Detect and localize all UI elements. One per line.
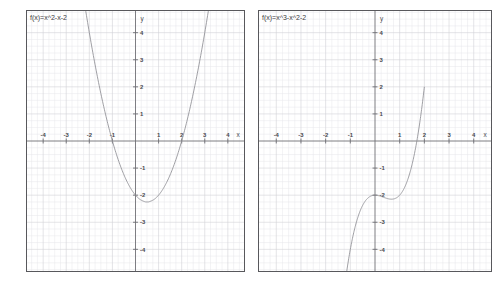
svg-text:-3: -3 xyxy=(379,219,385,225)
function-label-right: f(x)=x^3-x^2-2 xyxy=(262,13,306,22)
function-label-left: f(x)=x^2-x-2 xyxy=(30,13,67,22)
svg-text:3: 3 xyxy=(447,132,451,138)
svg-text:x: x xyxy=(483,131,487,138)
svg-text:3: 3 xyxy=(203,132,207,138)
svg-text:4: 4 xyxy=(472,132,476,138)
svg-text:-2: -2 xyxy=(140,192,146,198)
svg-text:-4: -4 xyxy=(379,247,385,253)
axis-names-left: xy xyxy=(140,15,240,138)
svg-text:-1: -1 xyxy=(379,165,385,171)
graph-panel-right: -4-3-2-11234-4-3-2-11234 xy f(x)=x^3-x^2… xyxy=(258,10,492,272)
svg-text:-3: -3 xyxy=(64,132,70,138)
axes-left xyxy=(27,11,244,271)
graph-panel-left: -4-3-2-11234-4-3-2-11234 xy f(x)=x^2-x-2 xyxy=(26,10,245,272)
svg-text:4: 4 xyxy=(226,132,230,138)
svg-text:-4: -4 xyxy=(41,132,47,138)
svg-text:2: 2 xyxy=(423,132,427,138)
function-curve-right xyxy=(345,87,424,271)
plot-area-right: -4-3-2-11234-4-3-2-11234 xy xyxy=(259,11,491,271)
svg-text:-1: -1 xyxy=(140,165,146,171)
plot-area-left: -4-3-2-11234-4-3-2-11234 xy xyxy=(27,11,244,271)
svg-text:-4: -4 xyxy=(274,132,280,138)
svg-text:1: 1 xyxy=(157,132,161,138)
axes-right xyxy=(259,11,491,271)
svg-text:-1: -1 xyxy=(348,132,354,138)
svg-text:-2: -2 xyxy=(87,132,93,138)
svg-text:-2: -2 xyxy=(323,132,329,138)
svg-text:-3: -3 xyxy=(298,132,304,138)
svg-text:1: 1 xyxy=(398,132,402,138)
svg-text:-3: -3 xyxy=(140,219,146,225)
svg-text:x: x xyxy=(236,131,240,138)
axis-names-right: xy xyxy=(380,15,487,138)
svg-text:-4: -4 xyxy=(140,247,146,253)
